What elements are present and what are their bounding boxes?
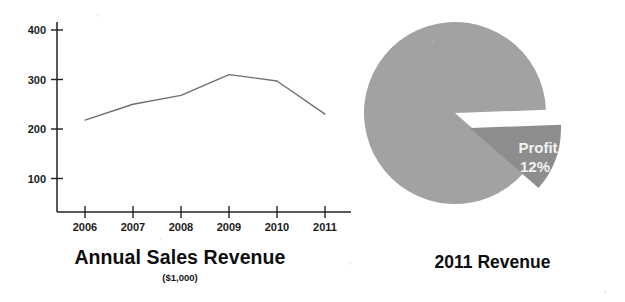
annual-sales-revenue-line-chart: 400 300 200 100 2006 2007 2008 2009 2010…: [0, 0, 360, 302]
revenue-pie-chart: Profit 12% 2011 Revenue: [360, 0, 625, 302]
line-chart-subtitle: ($1,000): [0, 272, 360, 283]
pie-chart-plot-area: Profit 12%: [360, 0, 625, 250]
pie-slice-remaining: [364, 22, 546, 204]
x-tick-label-2008: 2008: [169, 221, 193, 233]
x-tick-label-2007: 2007: [121, 221, 145, 233]
line-chart-title: Annual Sales Revenue: [0, 246, 360, 269]
y-tick-label-100: 100: [28, 173, 46, 185]
pie-slice-profit-percent: 12%: [520, 158, 550, 175]
line-chart-plot-area: 400 300 200 100 2006 2007 2008 2009 2010…: [0, 0, 360, 245]
x-tick-label-2011: 2011: [313, 221, 337, 233]
two-chart-figure: 400 300 200 100 2006 2007 2008 2009 2010…: [0, 0, 625, 302]
y-tick-label-300: 300: [28, 74, 46, 86]
pie-slice-profit-label: Profit: [518, 139, 557, 156]
x-tick-label-2009: 2009: [217, 221, 241, 233]
pie-chart-title: 2011 Revenue: [360, 252, 625, 273]
y-tick-label-200: 200: [28, 123, 46, 135]
x-tick-label-2010: 2010: [265, 221, 289, 233]
revenue-series-line: [85, 75, 325, 121]
x-tick-label-2006: 2006: [73, 221, 97, 233]
y-tick-label-400: 400: [28, 24, 46, 36]
